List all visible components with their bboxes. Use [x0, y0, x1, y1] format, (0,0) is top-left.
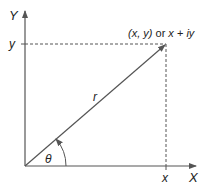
angle-label: θ [45, 152, 52, 166]
angle-arc [56, 139, 66, 166]
x-coordinate-label: x [161, 171, 169, 185]
complex-plane-diagram: Y y (x, y) or x + iy r θ x X [0, 0, 210, 187]
y-coordinate-label: y [8, 37, 16, 51]
point-label: (x, y) or x + iy [128, 27, 196, 39]
y-axis-label: Y [9, 8, 19, 23]
radius-vector [25, 45, 165, 166]
x-axis-label: X [188, 170, 199, 185]
radius-label: r [93, 90, 98, 104]
